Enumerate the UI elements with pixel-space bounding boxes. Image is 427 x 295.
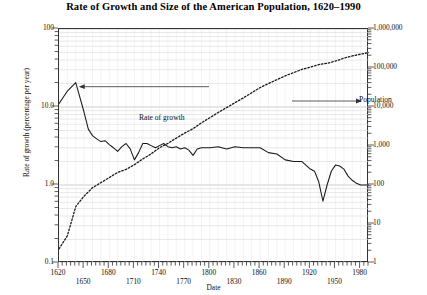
chart-title: Rate of Growth and Size of the American … xyxy=(0,1,427,12)
y-axis-left-title: Rate of growth (percentage per year) xyxy=(22,48,31,198)
annotation-rate-of-growth: Rate of growth xyxy=(139,113,185,122)
x-tick-1740: 1740 xyxy=(142,268,176,277)
x-tick-1980: 1980 xyxy=(343,268,377,277)
annotation-population: Population xyxy=(359,95,392,104)
y-left-tick-1.0: 1.0 xyxy=(45,179,54,188)
plot-area: Rate of growth Population xyxy=(58,28,368,262)
y-left-tick-10.0: 10.0 xyxy=(41,101,54,110)
x-tick-1680: 1680 xyxy=(91,268,125,277)
data-series-layer xyxy=(59,29,369,263)
y-right-tick-100000: 100,000 xyxy=(373,62,397,71)
x-tick-1620: 1620 xyxy=(41,268,75,277)
y-right-tick-10: 10 xyxy=(373,218,380,227)
x-tick-1920: 1920 xyxy=(292,268,326,277)
y-right-tick-1000: 1,000 xyxy=(373,140,390,149)
x-axis-title: Date xyxy=(0,283,427,292)
y-axis-right-tick-labels: 1101001,00010,000100,0001,000,000 xyxy=(373,0,427,295)
y-right-tick-1000000: 1,000,000 xyxy=(373,23,403,32)
y-right-tick-100: 100 xyxy=(373,179,384,188)
chart-root: Rate of Growth and Size of the American … xyxy=(0,0,427,295)
x-tick-1860: 1860 xyxy=(242,268,276,277)
x-tick-1800: 1800 xyxy=(192,268,226,277)
y-left-tick-100: 100 xyxy=(43,23,54,32)
